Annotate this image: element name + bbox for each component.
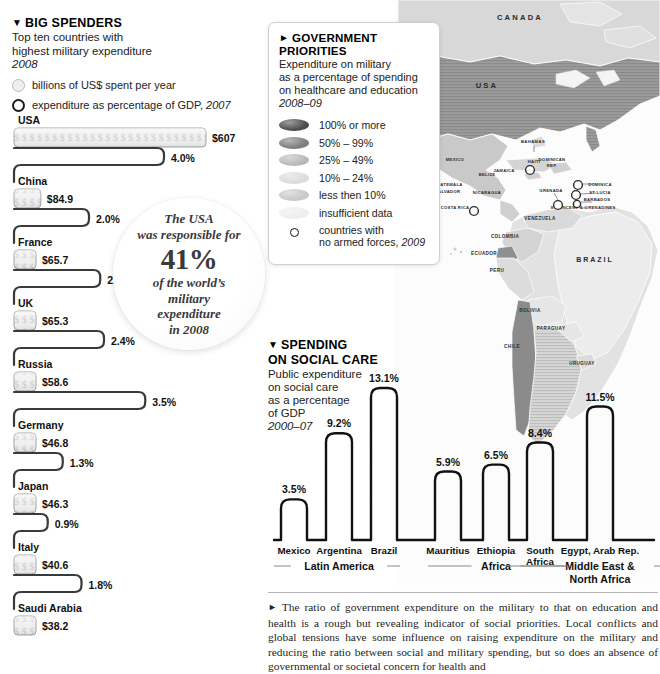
social-care-category-label: Ethiopia (477, 545, 516, 556)
map-label: COLOMBIA (491, 234, 519, 239)
social-care-value-label: 8.4% (528, 427, 553, 439)
map-no-armed-forces-marker (470, 207, 479, 216)
chart-spend-bar-shade (14, 250, 36, 269)
legend-color-swatch (279, 172, 309, 184)
key-percentage: expenditure as percentage of GDP, 2007 (12, 99, 262, 112)
usa-share-callout: The USA was responsible for 41% of the w… (113, 198, 265, 350)
map-label: BRAZIL (576, 256, 614, 263)
legend-color-swatch (279, 137, 309, 149)
key-percentage-label: expenditure as percentage of GDP, 2007 (32, 99, 231, 111)
chart-country-label: China (18, 175, 47, 187)
map-no-armed-forces-marker (573, 200, 580, 207)
chart-spend-bar-shade (14, 555, 36, 574)
big-spenders-title: ▼BIG SPENDERS (12, 16, 262, 30)
footnote-body: The ratio of government expenditure on t… (268, 601, 658, 672)
map-label: ECUADOR (471, 251, 497, 256)
chart-gdp-percentage: 2.0% (96, 213, 121, 225)
legend-item-label: 100% or more (319, 119, 386, 131)
legend-item-label: less then 10% (319, 189, 386, 201)
callout-line-4: military (168, 291, 210, 307)
legend-color-swatch (279, 189, 309, 201)
map-label: DOMINICAN (539, 157, 566, 162)
social-care-group-label: North Africa (570, 573, 631, 585)
legend-item-label: insufficient data (319, 207, 392, 219)
government-priorities-legend: ►GOVERNMENT PRIORITIES Expenditure on mi… (268, 22, 440, 265)
map-label: MEXICO (446, 157, 465, 162)
legend-color-swatch (279, 207, 309, 219)
social-care-category-label: Mexico (277, 545, 310, 556)
legend-item-label: 50% – 99% (319, 137, 373, 149)
military-expenditure-chart: $ USA$6074.0%China$84.92.0%France$65.72.… (6, 118, 266, 670)
chart-spend-value: $38.2 (42, 620, 68, 632)
map-label: PARAGUAY (537, 326, 566, 331)
legend-item-label: 10% – 24% (319, 172, 373, 184)
subtitle-year: 2008 (12, 58, 262, 72)
social-care-value-label: 3.5% (282, 483, 307, 495)
chart-country-label: Italy (18, 541, 39, 553)
map-no-armed-forces-marker (574, 181, 583, 190)
social-care-group-label: Middle East & (565, 560, 635, 572)
chart-gdp-percentage: 0.9% (55, 518, 80, 530)
map-label: USA (476, 81, 499, 90)
chart-gdp-percentage: 3.5% (152, 396, 177, 408)
callout-line-1: The USA (164, 211, 213, 227)
map-no-armed-forces-marker (526, 166, 535, 175)
social-care-category-label: Africa (526, 556, 554, 567)
chart-spend-bar-shade (14, 311, 36, 330)
callout-percentage: 41% (161, 244, 218, 274)
legend-color-swatch (279, 154, 309, 166)
social-care-value-label: 9.2% (327, 417, 352, 429)
legend-item: 10% – 24% (279, 172, 430, 184)
map-label: COSTA RICA (441, 205, 470, 210)
legend-item: 100% or more (279, 119, 430, 131)
social-care-chart: 3.5%Mexico9.2%Argentina13.1%Brazil5.9%Ma… (268, 338, 660, 590)
chart-spend-bar-shade (14, 372, 36, 391)
callout-line-5: expenditure (157, 306, 221, 322)
social-care-bar-outline (274, 388, 654, 540)
gov-sub-1: Expenditure on military (279, 58, 430, 71)
legend-item-label: 25% – 49% (319, 154, 373, 166)
chart-country-label: France (18, 236, 53, 248)
social-care-category-label: Argentina (316, 545, 362, 556)
gov-sub-year: 2008–09 (279, 97, 430, 110)
map-label: DOMINICA (588, 182, 612, 187)
social-care-group-label: Latin America (304, 560, 374, 572)
social-care-category-label: Brazil (371, 545, 398, 556)
chart-spend-value: $84.9 (47, 193, 73, 205)
callout-line-6: in 2008 (169, 322, 209, 338)
map-label: GRENADA (539, 188, 562, 193)
legend-swatch-list: 100% or more50% – 99%25% – 49%10% – 24%l… (279, 119, 430, 219)
gov-sub-2: as a percentage of spending (279, 71, 430, 84)
social-care-value-label: 5.9% (436, 456, 461, 468)
chart-country-label: USA (18, 114, 41, 126)
footnote-text: ► The ratio of government expenditure on… (268, 600, 658, 674)
social-care-value-label: 11.5% (585, 391, 615, 403)
social-care-panel: ▼SPENDING ON SOCIAL CARE Public expendit… (268, 338, 660, 594)
chart-gdp-percentage: 1.3% (70, 457, 95, 469)
chart-country-label: Japan (18, 480, 48, 492)
map-label: CANADA (497, 13, 543, 22)
chart-country-label: Germany (18, 419, 64, 431)
gov-priorities-title: ►GOVERNMENT PRIORITIES (279, 31, 430, 57)
subtitle-line-1: Top ten countries with (12, 31, 262, 45)
footnote-divider (268, 592, 658, 593)
chart-spend-value: $58.6 (42, 376, 68, 388)
social-care-category-label: Egypt, Arab Rep. (561, 545, 640, 556)
map-label: JAMAICA (493, 168, 514, 173)
legend-item: less then 10% (279, 189, 430, 201)
circle-outline-icon (279, 224, 309, 237)
map-label: BARBADOS (584, 197, 611, 202)
legend-no-armed-forces: countries with no armed forces, 2009 (279, 224, 430, 248)
map-no-armed-forces-marker (554, 201, 563, 210)
legend-item: 50% – 99% (279, 137, 430, 149)
map-label: VENEZUELA (524, 216, 556, 221)
legend-item: 25% – 49% (279, 154, 430, 166)
social-care-value-label: 6.5% (484, 449, 509, 461)
key-billions: billions of US$ spent per year (12, 79, 262, 92)
gov-priorities-subtitle: Expenditure on military as a percentage … (279, 58, 430, 110)
social-care-category-label: South (526, 545, 554, 556)
map-no-armed-forces-marker (572, 191, 581, 200)
chart-country-label: Saudi Arabia (18, 602, 82, 614)
chart-spend-bar-shade (14, 433, 36, 452)
map-label: BELIZE (479, 172, 496, 177)
